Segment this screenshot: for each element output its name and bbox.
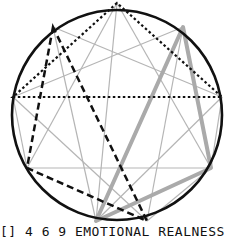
dotted-triangle: [13, 3, 222, 97]
outer-circle: [12, 10, 222, 220]
diagram-caption: [] 4 6 9 EMOTIONAL REALNESS: [0, 224, 234, 239]
enneagram-diagram: [0, 0, 234, 224]
